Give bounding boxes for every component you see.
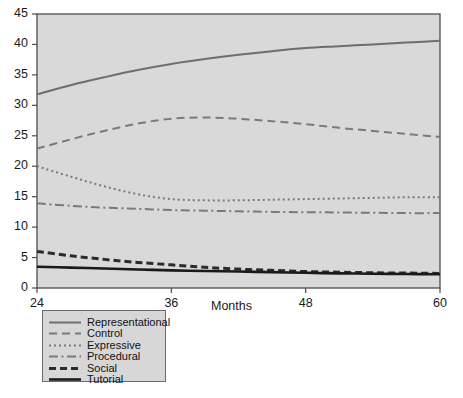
- y-tick-label-0: 0: [4, 280, 28, 294]
- legend-item-tutorial: Tutorial: [48, 374, 123, 386]
- legend-item-control: Control: [48, 328, 122, 340]
- legend-label: Representational: [87, 317, 170, 328]
- legend-swatch-tutorial-icon: [48, 374, 82, 385]
- legend-item-procedural: Procedural: [48, 351, 140, 363]
- y-tick-label-5: 5: [4, 250, 28, 264]
- legend-label: Control: [87, 328, 122, 339]
- y-tick-label-25: 25: [4, 128, 28, 142]
- y-tick-label-30: 30: [4, 97, 28, 111]
- legend-label: Tutorial: [87, 374, 123, 385]
- legend-swatch-control-icon: [48, 328, 82, 339]
- legend-swatch-procedural-icon: [48, 351, 82, 362]
- y-tick-label-20: 20: [4, 158, 28, 172]
- legend-label: Social: [87, 363, 117, 374]
- y-tick-label-35: 35: [4, 67, 28, 81]
- line-chart: 454035302520151050 24364860 Months Repre…: [0, 0, 463, 398]
- y-tick-label-10: 10: [4, 219, 28, 233]
- legend-label: Expressive: [87, 340, 141, 351]
- y-tick-label-15: 15: [4, 189, 28, 203]
- legend-swatch-representational-icon: [48, 317, 82, 328]
- legend-swatch-expressive-icon: [48, 340, 82, 351]
- legend-swatch-social-icon: [48, 363, 82, 374]
- y-tick-label-40: 40: [4, 36, 28, 50]
- legend-label: Procedural: [87, 351, 140, 362]
- chart-legend: RepresentationalControlExpressiveProcedu…: [42, 310, 166, 382]
- y-tick-label-45: 45: [4, 6, 28, 20]
